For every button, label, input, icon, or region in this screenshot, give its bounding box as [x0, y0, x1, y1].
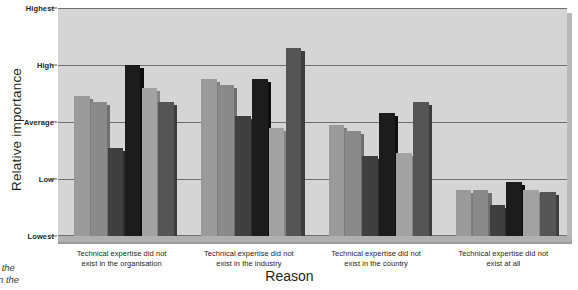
- bar-group: [58, 8, 185, 236]
- y-tick-label: High: [2, 61, 54, 70]
- bar: [456, 190, 472, 236]
- figure-caption-line: ted in the: [0, 274, 58, 286]
- bar: [506, 182, 522, 236]
- y-tick-label: Lowest: [2, 232, 54, 241]
- category-label: Technical expertise did notexist in the …: [313, 249, 440, 269]
- category-label-line: Technical expertise did not: [440, 249, 567, 259]
- y-tick-mark: [51, 122, 57, 123]
- category-label-line: Technical expertise did not: [185, 249, 312, 259]
- figure-caption: Why theted in the: [0, 262, 58, 286]
- y-tick-label: Highest: [2, 4, 54, 13]
- bar: [362, 156, 378, 236]
- bar: [473, 190, 489, 236]
- bar: [286, 48, 302, 236]
- bar: [490, 205, 506, 236]
- bar: [413, 102, 429, 236]
- y-tick-mark: [51, 65, 57, 66]
- bar: [91, 102, 107, 236]
- figure-caption-line: Why the: [0, 262, 58, 274]
- bar-group: [440, 8, 567, 236]
- bar: [540, 192, 556, 236]
- category-label: Technical expertise did notexist in the …: [58, 249, 185, 269]
- bar-group: [185, 8, 312, 236]
- bar: [523, 190, 539, 236]
- bar-group: [313, 8, 440, 236]
- bar-chart: Relative importance LowestLowAverageHigh…: [0, 0, 578, 290]
- category-label: Technical expertise did notexist at all: [440, 249, 567, 269]
- y-tick-mark: [51, 236, 57, 237]
- y-tick-mark: [51, 179, 57, 180]
- bar: [201, 79, 217, 236]
- bar: [345, 131, 361, 236]
- plot-floor-front: [58, 242, 572, 244]
- y-tick-label: Average: [2, 118, 54, 127]
- bar: [74, 96, 90, 236]
- bar: [235, 116, 251, 236]
- plot-area: [58, 8, 567, 236]
- bar: [379, 113, 395, 236]
- category-label: Technical expertise did notexist in the …: [185, 249, 312, 269]
- bar: [142, 88, 158, 236]
- bar: [108, 148, 124, 236]
- bar: [396, 153, 412, 236]
- bar: [269, 128, 285, 236]
- x-axis-title: Reason: [58, 268, 521, 284]
- bar: [125, 65, 141, 236]
- bar: [252, 79, 268, 236]
- bar: [158, 102, 174, 236]
- y-axis-tick-labels: LowestLowAverageHighHighest: [0, 0, 54, 250]
- bar: [218, 85, 234, 236]
- category-label-line: Technical expertise did not: [313, 249, 440, 259]
- bar: [329, 125, 345, 236]
- category-label-line: Technical expertise did not: [58, 249, 185, 259]
- y-tick-mark: [51, 8, 57, 9]
- y-tick-label: Low: [2, 175, 54, 184]
